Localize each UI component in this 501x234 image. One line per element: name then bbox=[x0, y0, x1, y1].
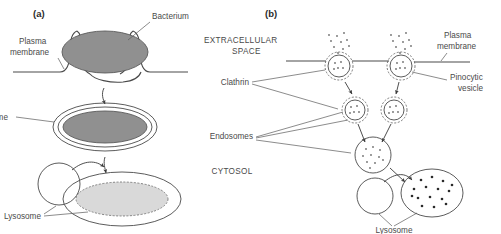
label-lysosome-b: Lysosome bbox=[375, 226, 412, 234]
panel-a: (a) Bacterium Plasma membrane bbox=[0, 8, 189, 226]
coated-pit-1-clathrin-coat bbox=[325, 52, 353, 80]
coated-vesicle-2-clathrin-coat bbox=[381, 97, 407, 123]
label-pinocytic-vesicle-line2: vesicle bbox=[458, 84, 483, 93]
label-pinocytic-vesicle-line1: Pinocytic bbox=[450, 73, 483, 82]
label-plasma-membrane-line1: Plasma bbox=[19, 37, 47, 46]
endosome-membrane bbox=[355, 137, 391, 173]
label-plasma-membrane-b-line1: Plasma bbox=[444, 31, 472, 40]
coated-vesicle-1-membrane bbox=[345, 100, 365, 120]
arrow-vesicle2-to-endosome bbox=[382, 124, 391, 142]
label-endosomes: Endosomes bbox=[210, 132, 253, 141]
lysosome-vesicle-b bbox=[357, 178, 393, 214]
arrow-phagosome-to-phagolysosome bbox=[104, 157, 106, 173]
coated-vesicle-1 bbox=[342, 97, 368, 123]
extracellular-molecules-2 bbox=[390, 32, 412, 54]
label-extracellular-space-line2: SPACE bbox=[232, 47, 261, 56]
label-clathrin: Clathrin bbox=[221, 78, 250, 87]
coated-vesicle-2-membrane bbox=[384, 100, 404, 120]
arrow-lysosome-fusion bbox=[72, 162, 104, 170]
endocytosis-figure: (a) Bacterium Plasma membrane bbox=[0, 0, 501, 234]
coated-pit-1 bbox=[325, 32, 353, 80]
endosome bbox=[355, 137, 391, 173]
mature-lysosome bbox=[401, 169, 463, 217]
phagolysosome-stage: Lysosome bbox=[4, 162, 181, 226]
phagocytosis-stage-engulfment: Bacterium Plasma membrane bbox=[10, 12, 189, 82]
arrow-engulfment-to-phagosome bbox=[102, 88, 105, 104]
coated-vesicle-1-clathrin-coat bbox=[342, 97, 368, 123]
phagosome-stage: Phagosome bbox=[0, 103, 157, 151]
digested-bacterium bbox=[76, 182, 168, 216]
label-extracellular-space-line1: EXTRACELLULAR bbox=[204, 36, 278, 45]
coated-vesicle-2 bbox=[381, 97, 407, 123]
plasma-membrane-b bbox=[286, 61, 470, 62]
phagosome-bacterium bbox=[63, 111, 147, 143]
label-plasma-membrane-line2: membrane bbox=[10, 48, 50, 57]
label-phagosome: Phagosome bbox=[0, 113, 8, 122]
bacterium-shape bbox=[62, 31, 148, 73]
extracellular-molecules-1 bbox=[328, 32, 350, 54]
label-cytosol: CYTOSOL bbox=[211, 167, 252, 176]
lysosome-vesicle-a bbox=[38, 163, 80, 205]
panel-a-letter: (a) bbox=[33, 8, 45, 19]
coated-pit-2-membrane bbox=[390, 55, 412, 77]
arrow-pit2-to-vesicle2 bbox=[396, 82, 399, 94]
label-bacterium: Bacterium bbox=[152, 12, 189, 21]
coated-pit-2 bbox=[387, 32, 415, 80]
panel-b: (b) EXTRACELLULAR SPACE Plasma membrane bbox=[204, 8, 483, 234]
arrow-pit1-to-vesicle1 bbox=[345, 82, 352, 94]
coated-pit-1-membrane bbox=[328, 55, 350, 77]
panel-b-letter: (b) bbox=[265, 8, 277, 19]
coated-pit-2-clathrin-coat bbox=[387, 52, 415, 80]
label-plasma-membrane-b-line2: membrane bbox=[437, 42, 477, 51]
label-lysosome-a: Lysosome bbox=[4, 212, 41, 221]
